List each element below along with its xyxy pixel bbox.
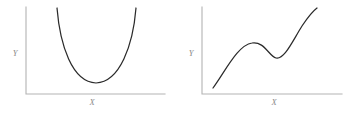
right-panel-axes [202, 7, 342, 94]
right-panel-y-axis-label: Y [189, 48, 195, 58]
cubic-function-plot: Y X [174, 0, 349, 113]
left-panel-x-axis-label: X [88, 97, 95, 107]
right-panel-x-axis-label: X [270, 97, 277, 107]
right-panel-curve [213, 8, 317, 88]
left-panel-axes [26, 7, 165, 94]
left-panel-curve [57, 8, 136, 83]
two-panel-function-figure: Y X Y X [0, 0, 349, 113]
convex-function-plot: Y X [0, 0, 175, 113]
left-panel-y-axis-label: Y [13, 48, 19, 58]
